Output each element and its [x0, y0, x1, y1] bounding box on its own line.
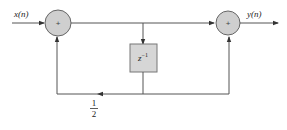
feedback-arrow-icon [97, 92, 103, 96]
input-label: x(n) [13, 9, 29, 19]
svg-text:2: 2 [92, 109, 97, 119]
adder-2: + [216, 11, 240, 35]
block-diagram: x(n) + z−1 1 2 + y(n) [0, 0, 287, 130]
output-label: y(n) [246, 9, 262, 19]
adder-1-plus: + [56, 19, 61, 28]
feedback-gain: 1 2 [90, 98, 98, 119]
adder-2-plus: + [226, 19, 231, 28]
svg-text:1: 1 [92, 98, 97, 108]
adder-1: + [45, 10, 71, 36]
delay-block: z−1 [130, 44, 157, 72]
